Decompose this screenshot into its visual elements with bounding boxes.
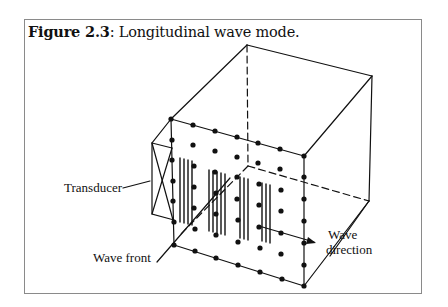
wave-front-label: Wave front	[93, 250, 151, 265]
longitudinal-wave-diagram: Transducer Wave front Wave direction	[0, 0, 448, 307]
wave-direction-arrow	[259, 226, 314, 242]
wave-direction-label-line1: Wave	[328, 227, 357, 242]
particle-dots	[168, 116, 306, 288]
arrowhead-icon	[306, 237, 316, 244]
transducer-block	[152, 119, 174, 220]
wave-direction-label-line2: direction	[326, 242, 373, 257]
transducer-leader	[123, 181, 150, 188]
transducer-label: Transducer	[64, 180, 123, 195]
